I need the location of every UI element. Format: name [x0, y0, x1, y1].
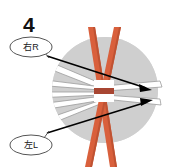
- instruction-diagram: 4 右R 左L: [0, 0, 175, 167]
- right-callout-label: 右R: [23, 41, 39, 52]
- left-callout: 左L: [10, 131, 52, 155]
- step-number: 4: [23, 13, 35, 36]
- left-callout-label: 左L: [24, 139, 38, 150]
- center-band: [94, 88, 114, 94]
- figure-container: 4 右R 左L: [0, 0, 175, 167]
- right-callout: 右R: [10, 37, 52, 58]
